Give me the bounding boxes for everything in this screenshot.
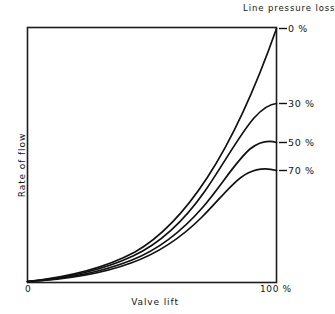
- series-label-70-percent: 70 %: [288, 165, 315, 176]
- series-label-50-percent: 50 %: [288, 137, 315, 148]
- curve-0-percent: [28, 29, 277, 282]
- series-label-0-percent: 0 %: [288, 23, 308, 34]
- x-axis-tick-min: 0: [25, 284, 31, 294]
- x-axis-title: Valve lift: [105, 297, 205, 307]
- y-axis-title: Rate of flow: [17, 115, 27, 215]
- curve-50-percent: [28, 141, 277, 281]
- series-label-30-percent: 30 %: [288, 98, 315, 109]
- curve-70-percent: [28, 169, 277, 282]
- x-axis-tick-max: 100 %: [260, 284, 292, 294]
